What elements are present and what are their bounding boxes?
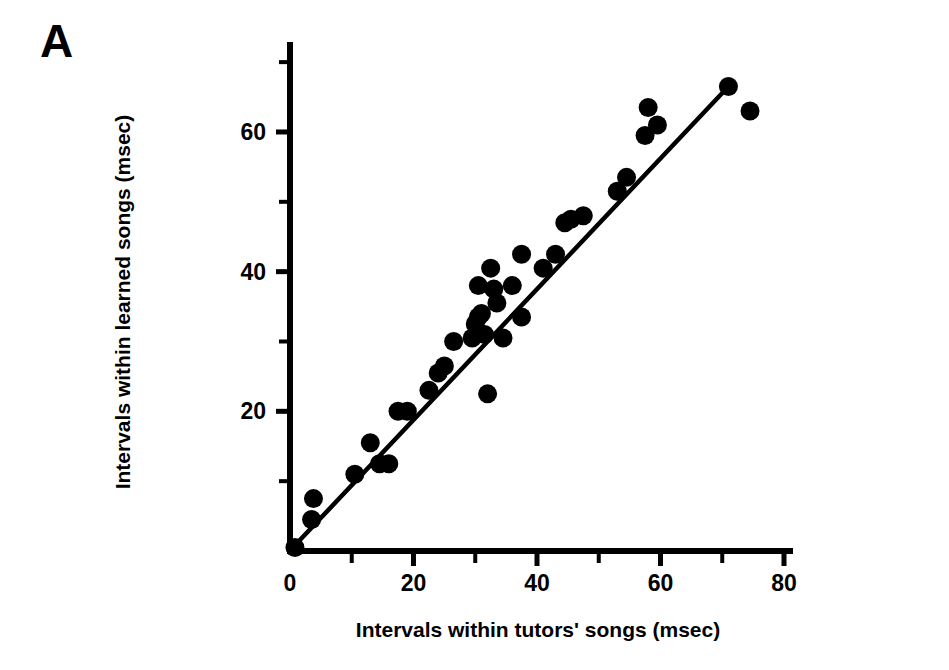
data-point (512, 308, 531, 327)
x-tick-label: 60 (648, 570, 674, 597)
data-point (484, 280, 503, 299)
data-point (475, 325, 494, 344)
data-point (648, 115, 667, 134)
data-point (398, 402, 417, 421)
data-point (546, 245, 565, 264)
data-point (379, 454, 398, 473)
data-point (741, 102, 760, 121)
data-point (419, 381, 438, 400)
data-point (617, 168, 636, 187)
data-point (719, 77, 738, 96)
data-point (472, 304, 491, 323)
data-point (435, 356, 454, 375)
y-tick-label: 20 (228, 398, 266, 425)
x-tick-label: 80 (771, 570, 797, 597)
data-point (478, 384, 497, 403)
x-tick-label: 40 (524, 570, 550, 597)
y-tick-label: 60 (228, 118, 266, 145)
data-points (285, 77, 759, 557)
data-point (503, 276, 522, 295)
data-point (512, 245, 531, 264)
data-point (481, 259, 500, 278)
x-tick-label: 0 (284, 570, 297, 597)
data-point (304, 489, 323, 508)
data-point (639, 98, 658, 117)
data-point (285, 538, 304, 557)
data-point (494, 328, 513, 347)
data-point (345, 465, 364, 484)
data-point (302, 510, 321, 529)
data-point (444, 332, 463, 351)
scatter-plot (0, 0, 949, 670)
y-tick-label: 40 (228, 258, 266, 285)
data-point (574, 206, 593, 225)
data-point (361, 433, 380, 452)
figure-panel-a: A Intervals within learned songs (msec) … (0, 0, 949, 670)
x-tick-label: 20 (401, 570, 427, 597)
